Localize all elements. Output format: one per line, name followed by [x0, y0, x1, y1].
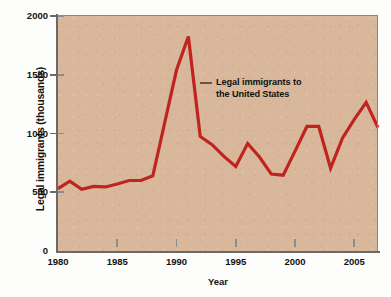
y-tick-mark-inner — [58, 191, 64, 193]
x-tick-mark — [116, 239, 118, 247]
x-tick-label: 1995 — [211, 256, 261, 267]
x-tick-label: 1980 — [33, 256, 83, 267]
x-tick-mark — [294, 239, 296, 247]
y-tick-mark — [50, 191, 57, 193]
plot-border-right — [377, 15, 378, 252]
y-tick-mark — [50, 15, 57, 17]
x-tick-mark — [235, 239, 237, 247]
y-tick-label: 500 — [0, 186, 48, 197]
y-tick-mark — [50, 74, 57, 76]
y-tick-mark — [50, 133, 57, 135]
x-tick-mark — [353, 239, 355, 247]
series-annotation-label: Legal immigrants to the United States — [216, 77, 301, 100]
y-tick-mark-inner — [58, 133, 64, 135]
x-tick-label: 2000 — [270, 256, 320, 267]
plot-border-top — [58, 15, 378, 16]
x-tick-label: 2005 — [329, 256, 379, 267]
series-line — [58, 37, 378, 190]
x-tick-label: 1985 — [92, 256, 142, 267]
x-tick-label: 1990 — [152, 256, 202, 267]
series-annotation: Legal immigrants to the United States — [200, 77, 301, 100]
y-tick-label: 1500 — [0, 69, 48, 80]
x-axis-spine — [56, 251, 380, 253]
y-tick-mark-inner — [58, 15, 64, 17]
chart-figure: Legal immigrants (thousands) 05001000150… — [0, 0, 391, 297]
y-tick-mark-inner — [58, 74, 64, 76]
line-series-legal-immigrants — [58, 16, 378, 251]
plot-area — [58, 16, 378, 251]
y-tick-label: 0 — [0, 245, 48, 256]
series-annotation-dash-icon — [200, 82, 212, 84]
x-axis-title: Year — [58, 276, 378, 287]
x-tick-mark — [176, 239, 178, 247]
y-tick-label: 1000 — [0, 128, 48, 139]
y-tick-label: 2000 — [0, 10, 48, 21]
